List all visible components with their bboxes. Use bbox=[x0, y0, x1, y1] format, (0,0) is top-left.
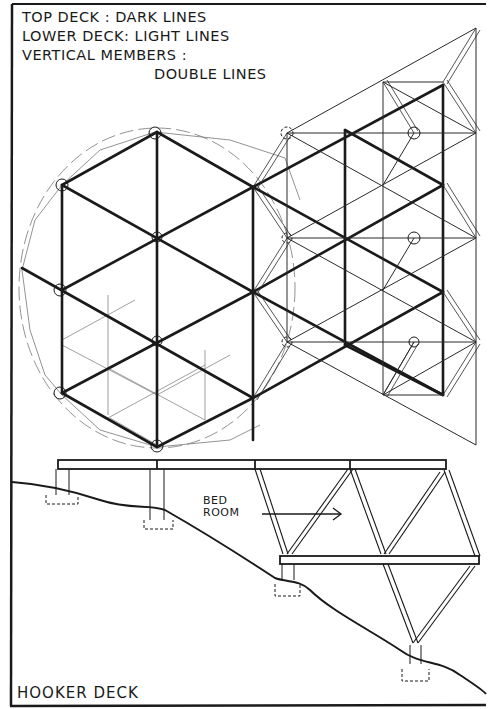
drawing-sheet: TOP DECK : DARK LINES LOWER DECK: LIGHT … bbox=[0, 0, 488, 709]
lower-deck-beam bbox=[280, 556, 479, 564]
legend-vertical-members: VERTICAL MEMBERS : bbox=[22, 46, 267, 65]
bedroom-label: BED ROOM bbox=[203, 495, 239, 519]
plan-lower-deck-truss bbox=[287, 28, 476, 445]
legend-double-lines: DOUBLE LINES bbox=[22, 65, 267, 84]
plan-column-circles bbox=[54, 127, 420, 452]
top-deck-beam bbox=[58, 460, 446, 469]
legend-top-deck: TOP DECK : DARK LINES bbox=[22, 8, 267, 27]
legend: TOP DECK : DARK LINES LOWER DECK: LIGHT … bbox=[22, 8, 267, 84]
drawing-title: HOOKER DECK bbox=[17, 684, 139, 702]
bedroom-label-line2: ROOM bbox=[203, 507, 239, 519]
legend-lower-deck: LOWER DECK: LIGHT LINES bbox=[22, 27, 267, 46]
ground-profile bbox=[12, 482, 486, 694]
sketch-drawing bbox=[0, 0, 488, 709]
